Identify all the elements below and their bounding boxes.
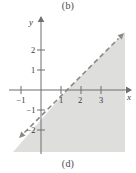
y-tick-label-neg1: −1 [26, 105, 35, 115]
y-tick-label-2: 2 [31, 45, 35, 55]
coordinate-plot: y x −1 1 2 3 2 1 −1 −2 [0, 14, 136, 158]
x-tick-label-3: 3 [99, 95, 103, 105]
y-tick-label-neg2: −2 [26, 125, 35, 135]
figure-caption-bottom: (d) [0, 158, 136, 169]
y-axis-label: y [28, 17, 33, 27]
x-tick-label-neg1: −1 [16, 95, 25, 105]
arrow-up-icon [38, 16, 45, 22]
plot-svg: y x −1 1 2 3 2 1 −1 −2 [0, 14, 136, 158]
x-axis-label: x [126, 92, 131, 102]
inequality-graph-figure: (b) [0, 0, 136, 173]
x-tick-label-1: 1 [59, 95, 63, 105]
x-tick-label-2: 2 [78, 95, 82, 105]
y-tick-label-1: 1 [31, 65, 35, 75]
figure-caption-top: (b) [0, 0, 136, 11]
